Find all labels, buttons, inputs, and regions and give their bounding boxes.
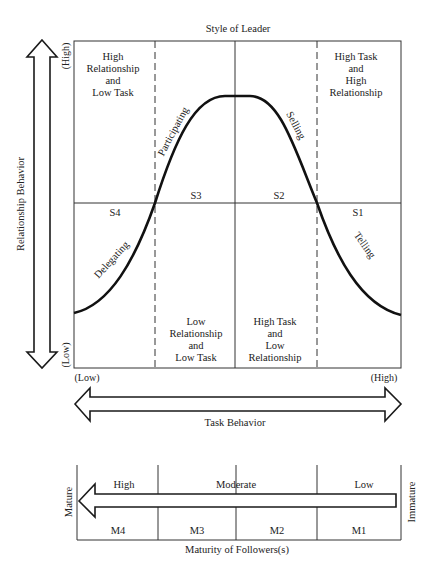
style-name-telling: Telling bbox=[352, 230, 378, 261]
quadrant-top-right-label: High Task and High Relationship bbox=[329, 51, 382, 98]
relationship-axis-arrow bbox=[27, 40, 57, 368]
quadrant-text-line: High bbox=[103, 51, 125, 62]
quadrant-text-line: and bbox=[267, 328, 283, 339]
maturity-stage-m4: M4 bbox=[111, 525, 126, 536]
quadrant-text-line: High Task bbox=[253, 316, 297, 327]
maturity-level-high: High bbox=[114, 479, 136, 490]
y-axis-label: Relationship Behavior bbox=[15, 156, 26, 251]
diagram-title: Style of Leader bbox=[206, 23, 271, 34]
leadership-style-curve bbox=[74, 96, 401, 315]
maturity-scale: High Moderate Low M4 M3 M2 M1 Mature Imm… bbox=[63, 465, 417, 556]
y-axis-low: (Low) bbox=[60, 343, 72, 368]
quadrant-text-line: and bbox=[348, 63, 364, 74]
style-name-selling: Selling bbox=[284, 110, 308, 142]
maturity-stage-m3: M3 bbox=[190, 525, 205, 536]
maturity-stage-m1: M1 bbox=[352, 525, 367, 536]
maturity-stage-m2: M2 bbox=[270, 525, 285, 536]
y-axis-high: (High) bbox=[60, 43, 72, 70]
style-code-s4: S4 bbox=[109, 207, 121, 218]
maturity-title: Maturity of Followers(s) bbox=[185, 544, 289, 556]
style-code-s2: S2 bbox=[273, 190, 284, 201]
quadrant-text-line: Low bbox=[186, 316, 206, 327]
quadrant-text-line: Low bbox=[265, 340, 285, 351]
quadrant-top-left-label: High Relationship and Low Task bbox=[86, 51, 139, 98]
style-code-s1: S1 bbox=[352, 207, 363, 218]
style-code-s3: S3 bbox=[190, 190, 201, 201]
x-axis-low: (Low) bbox=[75, 372, 100, 384]
quadrant-text-line: Low Task bbox=[175, 352, 217, 363]
maturity-mature-label: Mature bbox=[63, 487, 74, 518]
quadrant-bottom-left-label: Low Relationship and Low Task bbox=[169, 316, 222, 363]
quadrant-text-line: High Task bbox=[334, 51, 378, 62]
quadrant-text-line: High bbox=[346, 75, 368, 86]
quadrant-text-line: and bbox=[188, 340, 204, 351]
x-axis-high: (High) bbox=[371, 372, 398, 384]
situational-leadership-diagram: Style of Leader Relationship Behavior (H… bbox=[0, 0, 432, 567]
maturity-level-low: Low bbox=[354, 479, 374, 490]
quadrant-text-line: Relationship bbox=[169, 328, 222, 339]
style-name-delegating: Delegating bbox=[92, 238, 132, 280]
quadrant-bottom-right-label: High Task and Low Relationship bbox=[248, 316, 301, 363]
maturity-immature-label: Immature bbox=[406, 481, 417, 522]
quadrant-text-line: Relationship bbox=[248, 352, 301, 363]
quadrant-text-line: Relationship bbox=[329, 87, 382, 98]
maturity-level-moderate: Moderate bbox=[216, 479, 257, 490]
quadrant-text-line: Relationship bbox=[86, 63, 139, 74]
x-axis-label: Task Behavior bbox=[205, 417, 266, 428]
quadrant-text-line: Low Task bbox=[92, 87, 134, 98]
quadrant-text-line: and bbox=[105, 75, 121, 86]
